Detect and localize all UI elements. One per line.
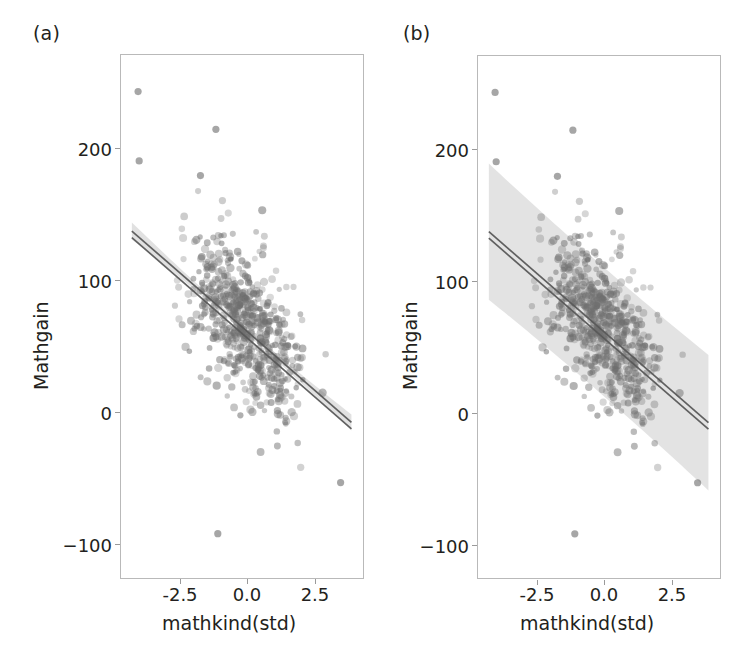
scatter-point xyxy=(646,357,653,364)
scatter-point xyxy=(554,173,561,180)
scatter-point xyxy=(249,312,257,320)
figure-container: (a) Mathgain mathkind(std) 200 100 0 −10… xyxy=(0,0,751,665)
scatter-point xyxy=(214,530,221,537)
scatter-point xyxy=(258,206,266,214)
scatter-point xyxy=(628,308,634,314)
scatter-point xyxy=(221,358,227,364)
scatter-point xyxy=(175,284,182,291)
panel-b-ytick-neg100: −100 xyxy=(403,536,469,557)
scatter-point xyxy=(294,440,300,446)
scatter-point xyxy=(604,323,612,331)
scatter-point xyxy=(532,316,539,323)
scatter-point xyxy=(550,311,558,319)
scatter-point xyxy=(585,354,590,359)
scatter-point xyxy=(582,210,589,217)
scatter-point xyxy=(634,287,639,292)
scatter-point xyxy=(337,479,344,486)
scatter-point xyxy=(214,364,222,372)
scatter-point xyxy=(587,404,595,412)
scatter-point xyxy=(575,234,580,239)
scatter-point xyxy=(225,210,232,217)
panel-b-xtick-mark-2p5 xyxy=(672,580,673,585)
scatter-point xyxy=(610,230,616,236)
scatter-point xyxy=(298,311,304,317)
scatter-point xyxy=(283,284,289,290)
scatter-point xyxy=(283,342,291,350)
scatter-point xyxy=(571,258,579,266)
scatter-point xyxy=(565,261,572,268)
scatter-point xyxy=(633,391,641,399)
scatter-point xyxy=(223,374,230,381)
scatter-point xyxy=(262,408,267,413)
scatter-point xyxy=(207,345,213,351)
scatter-point xyxy=(298,354,306,362)
scatter-point xyxy=(172,303,178,309)
scatter-point xyxy=(266,327,274,335)
panel-b-xtick-mark-0 xyxy=(604,580,605,585)
scatter-point xyxy=(536,235,544,243)
scatter-point xyxy=(558,312,564,318)
scatter-point xyxy=(243,398,250,405)
scatter-point xyxy=(605,301,612,308)
panel-b-xtick-0: 0.0 xyxy=(574,584,634,605)
scatter-point xyxy=(571,530,578,537)
scatter-point xyxy=(238,279,244,285)
scatter-point xyxy=(228,383,235,390)
scatter-point xyxy=(294,385,299,390)
scatter-point xyxy=(233,369,239,375)
panel-b-xtick-2p5: 2.5 xyxy=(642,584,702,605)
scatter-point xyxy=(620,303,627,310)
scatter-point xyxy=(614,357,620,363)
scatter-point xyxy=(606,373,614,381)
scatter-point xyxy=(565,282,570,287)
panel-a-xtick-0: 0.0 xyxy=(217,584,277,605)
scatter-point xyxy=(532,284,539,291)
scatter-point xyxy=(611,319,619,327)
scatter-point xyxy=(214,258,222,266)
scatter-point xyxy=(247,352,254,359)
scatter-point xyxy=(184,290,192,298)
scatter-point xyxy=(187,317,195,325)
scatter-point xyxy=(651,400,659,408)
panel-b-ytick-0: 0 xyxy=(411,404,469,425)
scatter-point xyxy=(299,317,305,323)
scatter-point xyxy=(572,250,580,258)
scatter-point xyxy=(581,343,587,349)
scatter-point xyxy=(256,372,264,380)
scatter-point xyxy=(622,385,629,392)
scatter-point xyxy=(197,172,204,179)
scatter-point xyxy=(590,356,596,362)
scatter-point xyxy=(629,368,637,376)
scatter-point xyxy=(590,301,597,308)
scatter-point xyxy=(635,321,643,329)
scatter-point xyxy=(587,231,593,237)
scatter-point xyxy=(276,411,284,419)
scatter-point xyxy=(225,393,230,398)
scatter-point xyxy=(275,328,283,336)
scatter-point xyxy=(567,235,573,241)
scatter-point xyxy=(573,317,580,324)
scatter-point xyxy=(640,343,648,351)
scatter-point xyxy=(240,380,246,386)
scatter-point xyxy=(633,411,641,419)
scatter-point xyxy=(213,382,221,390)
scatter-point xyxy=(631,337,639,345)
scatter-point xyxy=(591,339,597,345)
scatter-point xyxy=(211,332,216,337)
scatter-point xyxy=(218,233,223,238)
panel-b-x-axis-label: mathkind(std) xyxy=(520,612,654,634)
scatter-point xyxy=(603,278,609,284)
scatter-point xyxy=(201,245,209,253)
scatter-point xyxy=(548,276,554,282)
scatter-point xyxy=(564,346,570,352)
scatter-point xyxy=(614,448,622,456)
scatter-point xyxy=(636,372,642,378)
scatter-point xyxy=(221,273,228,280)
scatter-point xyxy=(246,277,252,283)
panel-b-scatter-canvas xyxy=(478,56,720,578)
panel-a-ytick-100: 100 xyxy=(54,271,112,292)
panel-b-letter: (b) xyxy=(403,22,431,44)
scatter-point xyxy=(679,351,685,357)
scatter-point xyxy=(228,328,233,333)
scatter-point xyxy=(264,399,270,405)
